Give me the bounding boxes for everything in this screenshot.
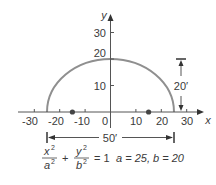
x-axis: -30 -20 -10 0 10 20 30 x <box>18 109 211 127</box>
x-tick-label: -30 <box>22 115 38 127</box>
eq-denominator-a: a <box>44 159 50 171</box>
eq-numerator-x: x <box>43 145 50 157</box>
eq-params: a = 25, b = 20 <box>116 152 185 164</box>
x-axis-arrow-icon <box>197 109 204 115</box>
y-axis-arrow-icon <box>108 14 114 21</box>
x-tick-label: 30 <box>181 115 193 127</box>
height-label: 20′ <box>174 80 188 92</box>
x-tick-label: 0 <box>102 115 108 127</box>
eq-equals-one: = 1 <box>94 152 110 164</box>
ellipse-diagram: -30 -20 -10 0 10 20 30 x 10 20 30 y 20′ <box>0 0 216 185</box>
y-axis: 10 20 30 y <box>94 9 114 128</box>
y-tick-label: 30 <box>94 27 106 39</box>
arrow-down-icon <box>179 105 184 111</box>
height-dimension: 20′ <box>174 59 188 111</box>
eq-plus: + <box>62 152 68 164</box>
ellipse-equation: x 2 a 2 + y 2 b 2 = 1 a = 25, b = 20 <box>42 144 185 171</box>
focus-point-left <box>70 109 75 114</box>
eq-exp: 2 <box>83 158 87 165</box>
x-tick-label: -10 <box>74 115 90 127</box>
arrow-up-icon <box>179 60 184 66</box>
eq-numerator-y: y <box>75 145 83 157</box>
focus-point-right <box>146 109 151 114</box>
y-tick-label: 10 <box>94 80 106 92</box>
eq-exp: 2 <box>51 144 55 151</box>
width-label: 50′ <box>103 132 117 144</box>
x-axis-label: x <box>204 114 211 126</box>
width-dimension: 50′ <box>47 132 174 144</box>
y-axis-label: y <box>100 9 108 21</box>
eq-denominator-b: b <box>76 159 82 171</box>
eq-exp: 2 <box>51 158 55 165</box>
x-tick-label: -20 <box>48 115 64 127</box>
y-tick-label: 20 <box>94 47 106 59</box>
arrow-left-icon <box>48 135 55 140</box>
arrow-right-icon <box>166 135 173 140</box>
x-tick-label: 20 <box>156 115 168 127</box>
x-tick-label: 10 <box>130 115 142 127</box>
eq-exp: 2 <box>83 144 87 151</box>
